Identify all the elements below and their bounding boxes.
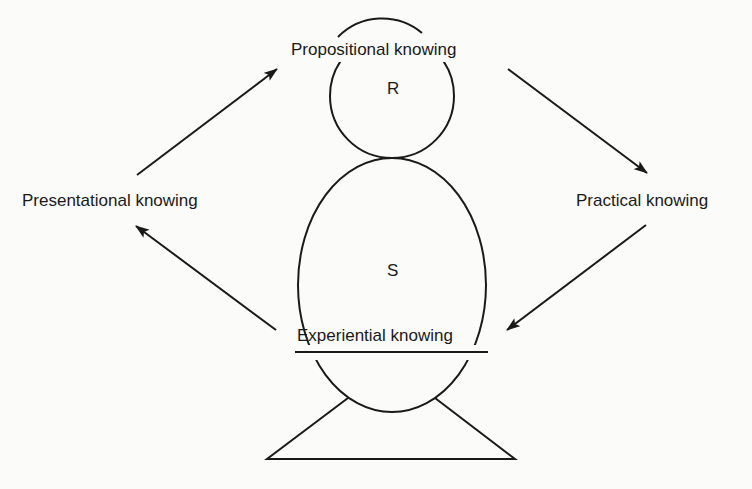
arrow-propositional-to-practical bbox=[508, 69, 647, 173]
diagram-graphics bbox=[0, 0, 752, 489]
base-shape bbox=[267, 398, 515, 459]
head-label-r: R bbox=[387, 80, 399, 97]
node-practical-knowing: Practical knowing bbox=[576, 192, 708, 209]
arrow-presentational-to-propositional bbox=[137, 69, 277, 175]
node-experiential-knowing: Experiential knowing bbox=[297, 327, 453, 344]
diagram-canvas: Propositional knowing Presentational kno… bbox=[0, 0, 752, 489]
body-label-s: S bbox=[387, 262, 398, 279]
body-ellipse bbox=[298, 158, 486, 412]
arrow-experiential-to-presentational bbox=[136, 226, 276, 330]
node-propositional-knowing: Propositional knowing bbox=[291, 41, 456, 58]
node-presentational-knowing: Presentational knowing bbox=[22, 192, 198, 209]
arrow-practical-to-experiential bbox=[507, 225, 646, 330]
